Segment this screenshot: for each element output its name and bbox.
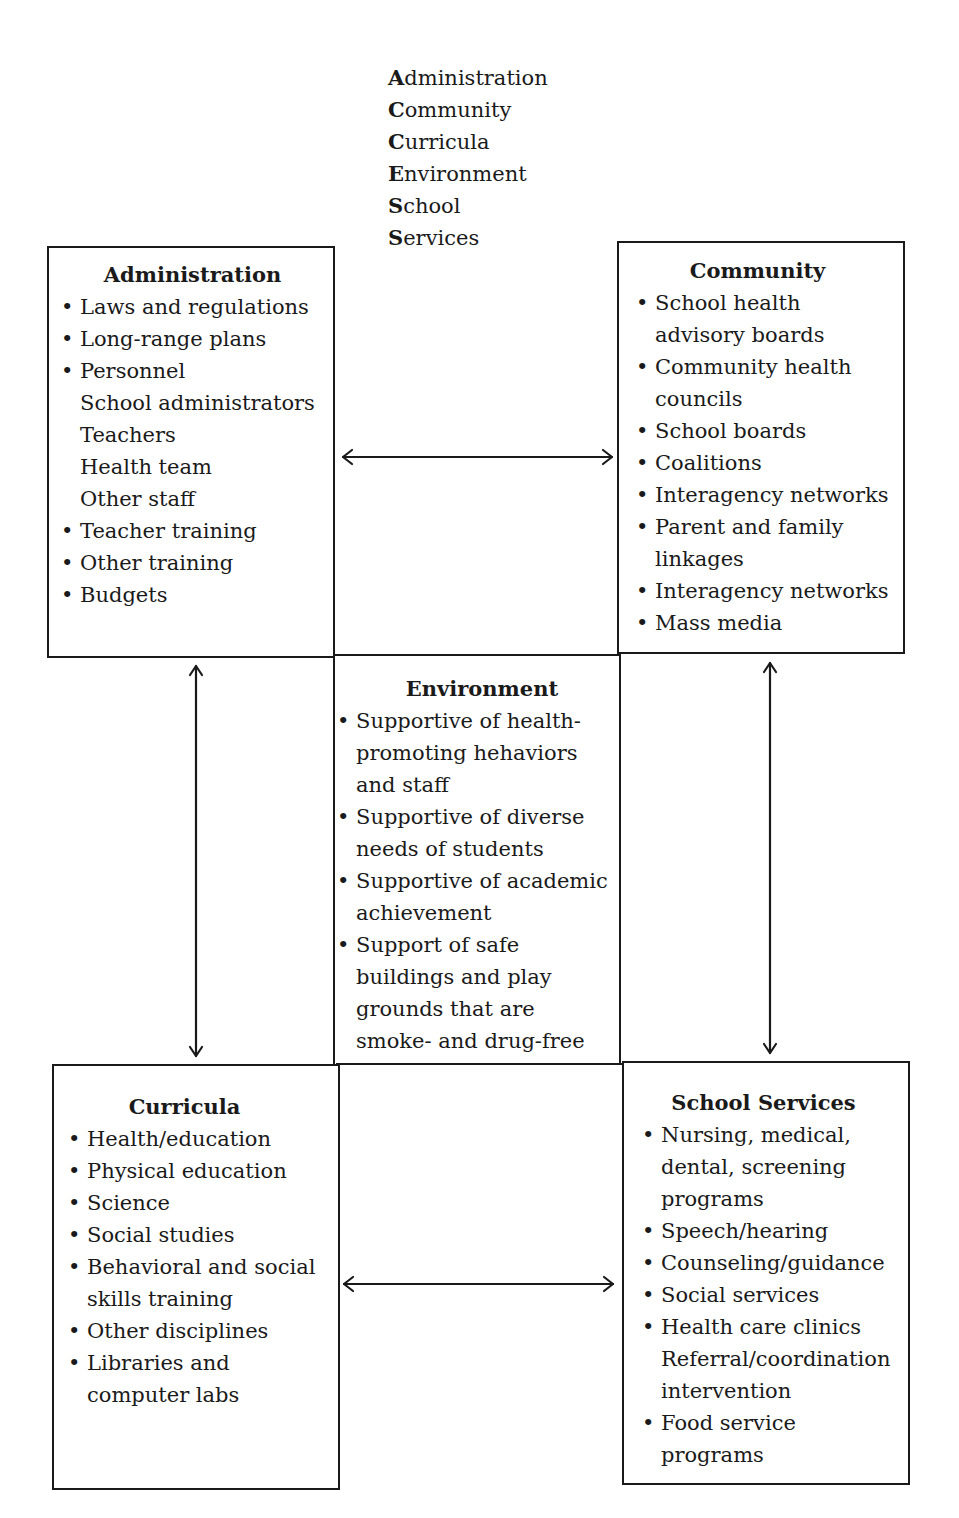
- double-arrow-horizontal-icon: [341, 1274, 617, 1294]
- list-item: Speech/hearing: [641, 1215, 906, 1247]
- list-item: Other training: [60, 547, 325, 579]
- list-item: Health team: [60, 451, 325, 483]
- list-item: Budgets: [60, 579, 325, 611]
- list-item: Health care clinics: [641, 1311, 906, 1343]
- acronym-line: Services: [388, 222, 548, 254]
- list-item: Other disciplines: [67, 1315, 332, 1347]
- list-item: Physical education: [67, 1155, 332, 1187]
- list-item: promoting hehaviors: [336, 737, 618, 769]
- administration-panel: Administration Laws and regulations Long…: [60, 259, 325, 611]
- list-item: intervention: [641, 1375, 906, 1407]
- acronym-line: Administration: [388, 62, 548, 94]
- list-item: buildings and play: [336, 961, 618, 993]
- list-item: Support of safe: [336, 929, 618, 961]
- list-item: Community health: [635, 351, 900, 383]
- acronym-line: Environment: [388, 158, 548, 190]
- list-item: needs of students: [336, 833, 618, 865]
- list-item: Mass media: [635, 607, 900, 639]
- list-item: Interagency networks: [635, 479, 900, 511]
- list-item: Social studies: [67, 1219, 332, 1251]
- list-item: dental, screening: [641, 1151, 906, 1183]
- list-item: Health/education: [67, 1123, 332, 1155]
- list-item: Laws and regulations: [60, 291, 325, 323]
- list-item: Long-range plans: [60, 323, 325, 355]
- list-item: Social services: [641, 1279, 906, 1311]
- list-item: Teacher training: [60, 515, 325, 547]
- acronym-legend: Administration Community Curricula Envir…: [388, 62, 548, 254]
- list-item: Supportive of academic: [336, 865, 618, 897]
- list-item: Nursing, medical,: [641, 1119, 906, 1151]
- list-item: councils: [635, 383, 900, 415]
- curricula-title: Curricula: [67, 1091, 332, 1123]
- list-item: Referral/coordination: [641, 1343, 906, 1375]
- list-item: skills training: [67, 1283, 332, 1315]
- list-item: achievement: [336, 897, 618, 929]
- list-item: Personnel: [60, 355, 325, 387]
- list-item: School administrators: [60, 387, 325, 419]
- school-services-panel: School Services Nursing, medical, dental…: [641, 1087, 906, 1471]
- list-item: advisory boards: [635, 319, 900, 351]
- list-item: Behavioral and social: [67, 1251, 332, 1283]
- environment-title: Environment: [336, 673, 618, 705]
- double-arrow-horizontal-icon: [340, 447, 616, 467]
- list-item: Interagency networks: [635, 575, 900, 607]
- community-title: Community: [635, 255, 900, 287]
- environment-left-line: [333, 656, 335, 1066]
- administration-title: Administration: [60, 259, 325, 291]
- list-item: Parent and family: [635, 511, 900, 543]
- environment-top-line: [333, 654, 621, 656]
- school-services-list: Nursing, medical, dental, screening prog…: [641, 1119, 906, 1471]
- curricula-list: Health/education Physical education Scie…: [67, 1123, 332, 1411]
- environment-panel: Environment Supportive of health- promot…: [336, 673, 618, 1057]
- double-arrow-vertical-icon: [186, 663, 206, 1059]
- community-list: School health advisory boards Community …: [635, 287, 900, 639]
- acronym-line: Curricula: [388, 126, 548, 158]
- acronym-line: School: [388, 190, 548, 222]
- list-item: linkages: [635, 543, 900, 575]
- list-item: Food service: [641, 1407, 906, 1439]
- list-item: grounds that are: [336, 993, 618, 1025]
- list-item: Supportive of diverse: [336, 801, 618, 833]
- acronym-line: Community: [388, 94, 548, 126]
- list-item: Supportive of health-: [336, 705, 618, 737]
- list-item: computer labs: [67, 1379, 332, 1411]
- school-services-title: School Services: [641, 1087, 906, 1119]
- list-item: programs: [641, 1439, 906, 1471]
- list-item: Teachers: [60, 419, 325, 451]
- list-item: and staff: [336, 769, 618, 801]
- list-item: smoke- and drug-free: [336, 1025, 618, 1057]
- list-item: Libraries and: [67, 1347, 332, 1379]
- double-arrow-vertical-icon: [760, 660, 780, 1056]
- curricula-panel: Curricula Health/education Physical educ…: [67, 1091, 332, 1411]
- list-item: School health: [635, 287, 900, 319]
- community-panel: Community School health advisory boards …: [635, 255, 900, 639]
- list-item: Coalitions: [635, 447, 900, 479]
- environment-list: Supportive of health- promoting hehavior…: [336, 705, 618, 1057]
- administration-list: Laws and regulations Long-range plans Pe…: [60, 291, 325, 611]
- environment-bottom-line: [336, 1063, 624, 1065]
- list-item: School boards: [635, 415, 900, 447]
- list-item: Science: [67, 1187, 332, 1219]
- list-item: Counseling/guidance: [641, 1247, 906, 1279]
- list-item: programs: [641, 1183, 906, 1215]
- list-item: Other staff: [60, 483, 325, 515]
- environment-right-line: [619, 652, 621, 1064]
